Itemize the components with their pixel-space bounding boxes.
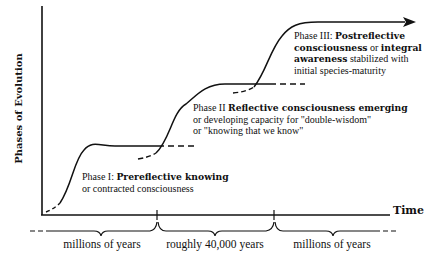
x-axis-label: Time — [393, 204, 424, 217]
phase-3-desc: initial species-maturity — [294, 65, 422, 77]
phase-1-prefix: Phase I: — [82, 171, 116, 182]
phase-3-title: Postreflective — [335, 30, 405, 41]
phase-2-prefix: Phase II — [193, 102, 228, 113]
time-span-3: millions of years — [282, 238, 382, 250]
phase-3-label: Phase III: Postreflective consciousness … — [294, 30, 422, 76]
phase-1-label: Phase I: Prereflective knowing or contra… — [82, 171, 229, 194]
phase-1-desc: or contracted consciousness — [82, 183, 229, 195]
brace-3 — [275, 222, 375, 236]
phase-2-title: Reflective consciousness emerging — [228, 102, 408, 113]
phase-3-prefix: Phase III: — [294, 30, 335, 41]
phase-3-bold-1: consciousness — [294, 42, 368, 53]
phase-2-desc-1: or developing capacity for "double-wisdo… — [193, 114, 408, 126]
phase-2-label: Phase II Reflective consciousness emergi… — [193, 102, 408, 137]
phase-3-bold-3: awareness — [294, 53, 347, 64]
y-axis-label: Phases of Evolution — [13, 49, 24, 169]
brace-2 — [158, 222, 274, 236]
phase-2-desc-2: or "knowing that we know" — [193, 125, 408, 137]
phase-1-dashed-start — [46, 203, 60, 212]
brace-1 — [46, 222, 157, 236]
phase-2-dashed-start — [138, 153, 156, 159]
time-span-1: millions of years — [52, 238, 152, 250]
time-span-2: roughly 40,000 years — [156, 238, 274, 250]
phase-3-bold-2: integral — [381, 42, 422, 53]
phase-1-title: Prereflective knowing — [116, 171, 228, 182]
phase-3-dashed-start — [233, 87, 254, 93]
phase-3-mid: or — [368, 42, 381, 53]
phase-3-rest: stabilized with — [347, 53, 408, 64]
